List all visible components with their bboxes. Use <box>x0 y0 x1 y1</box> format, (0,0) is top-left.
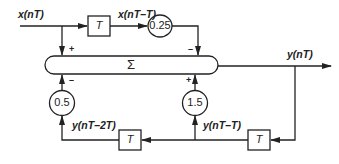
sign-output-delayed-2: – <box>69 75 74 85</box>
gain-15-label: 1.5 <box>181 96 209 108</box>
input-label: x(nT) <box>18 8 44 20</box>
summer-sigma: Σ <box>127 57 135 72</box>
delay-output-1-label: T <box>248 133 270 145</box>
output-label: y(nT) <box>287 48 313 60</box>
gain-05-label: 0.5 <box>48 96 76 108</box>
feedback-wire <box>271 66 295 140</box>
delay-output-2-label: T <box>119 133 141 145</box>
gain-025-label: 0.25 <box>146 19 174 31</box>
sign-output-delayed-1: + <box>186 75 191 85</box>
delay-input-label: T <box>88 19 110 31</box>
output-delayed-1-label: y(nT–T) <box>203 119 241 131</box>
output-delayed-2-label: y(nT–2T) <box>72 119 116 131</box>
sign-input-delayed: – <box>188 44 193 54</box>
sign-input: + <box>69 44 74 54</box>
gain025-to-sum-wire <box>172 26 198 55</box>
